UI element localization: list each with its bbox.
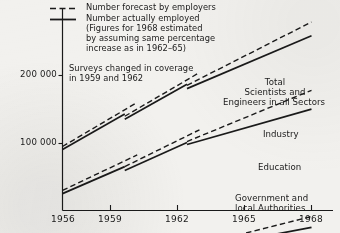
chart-figure: Number forecast by employers Number actu… <box>0 0 340 233</box>
series-line-2-seg-2 <box>63 155 138 190</box>
legend-label-employed-line4: increase as in 1962–65) <box>86 44 186 53</box>
series-line-1-seg-6 <box>187 22 312 85</box>
x-axis-label-1968: 1968 <box>289 214 333 224</box>
series-label-government-line2: local Authorities <box>235 204 305 214</box>
annotation-surveys-line1: Surveys changed in coverage <box>69 64 193 73</box>
series-line-1-seg-1 <box>63 114 125 150</box>
annotation-surveys-line2: in 1959 and 1962 <box>69 74 143 83</box>
y-axis-label-100000: 100 000 <box>0 138 57 148</box>
x-axis-label-1962: 1962 <box>155 214 199 224</box>
x-axis-label-1956: 1956 <box>41 214 85 224</box>
series-label-total-line3: Engineers in all Sectors <box>210 98 338 108</box>
series-label-industry: Industry <box>263 130 299 140</box>
legend-label-employed-line1: Number actually employed <box>86 14 200 23</box>
y-axis-label-200000: 200 000 <box>0 70 57 80</box>
x-axis-label-1959: 1959 <box>88 214 132 224</box>
series-line-1-seg-2 <box>63 102 138 146</box>
series-line-2-seg-4 <box>125 130 200 167</box>
series-label-education: Education <box>258 163 301 173</box>
x-axis-label-1965: 1965 <box>222 214 266 224</box>
series-line-2-seg-1 <box>63 167 125 194</box>
series-line-1-seg-3 <box>125 84 187 119</box>
legend-label-employed-line2: (Figures for 1968 estimated <box>86 24 202 33</box>
legend-label-employed-line3: by assuming same percentage <box>86 34 215 43</box>
legend-label-forecast: Number forecast by employers <box>86 3 216 12</box>
